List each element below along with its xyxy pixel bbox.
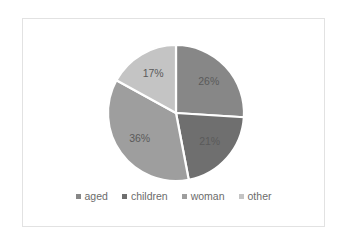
- pie-data-label-aged: 26%: [198, 75, 219, 87]
- legend-swatch-icon: [122, 194, 127, 199]
- legend-swatch-icon: [182, 194, 187, 199]
- legend-item-label: children: [131, 191, 168, 202]
- legend-item-aged[interactable]: aged: [76, 191, 108, 202]
- legend-item-children[interactable]: children: [122, 191, 168, 202]
- legend-item-label: other: [248, 191, 272, 202]
- legend-item-other[interactable]: other: [239, 191, 272, 202]
- pie-data-label-other: 17%: [143, 67, 164, 79]
- chart-card: 26%21%36%17% agedchildrenwomanother: [22, 18, 325, 227]
- pie-chart-plot-area: 26%21%36%17%: [23, 19, 324, 189]
- chart-legend: agedchildrenwomanother: [23, 191, 324, 202]
- pie-data-label-children: 21%: [199, 135, 220, 147]
- pie-chart-svg: 26%21%36%17%: [23, 19, 324, 189]
- legend-item-label: woman: [191, 191, 225, 202]
- legend-swatch-icon: [76, 194, 81, 199]
- legend-swatch-icon: [239, 194, 244, 199]
- pie-data-label-woman: 36%: [129, 132, 150, 144]
- pie-slice-group: [108, 45, 244, 181]
- legend-item-woman[interactable]: woman: [182, 191, 225, 202]
- legend-item-label: aged: [85, 191, 108, 202]
